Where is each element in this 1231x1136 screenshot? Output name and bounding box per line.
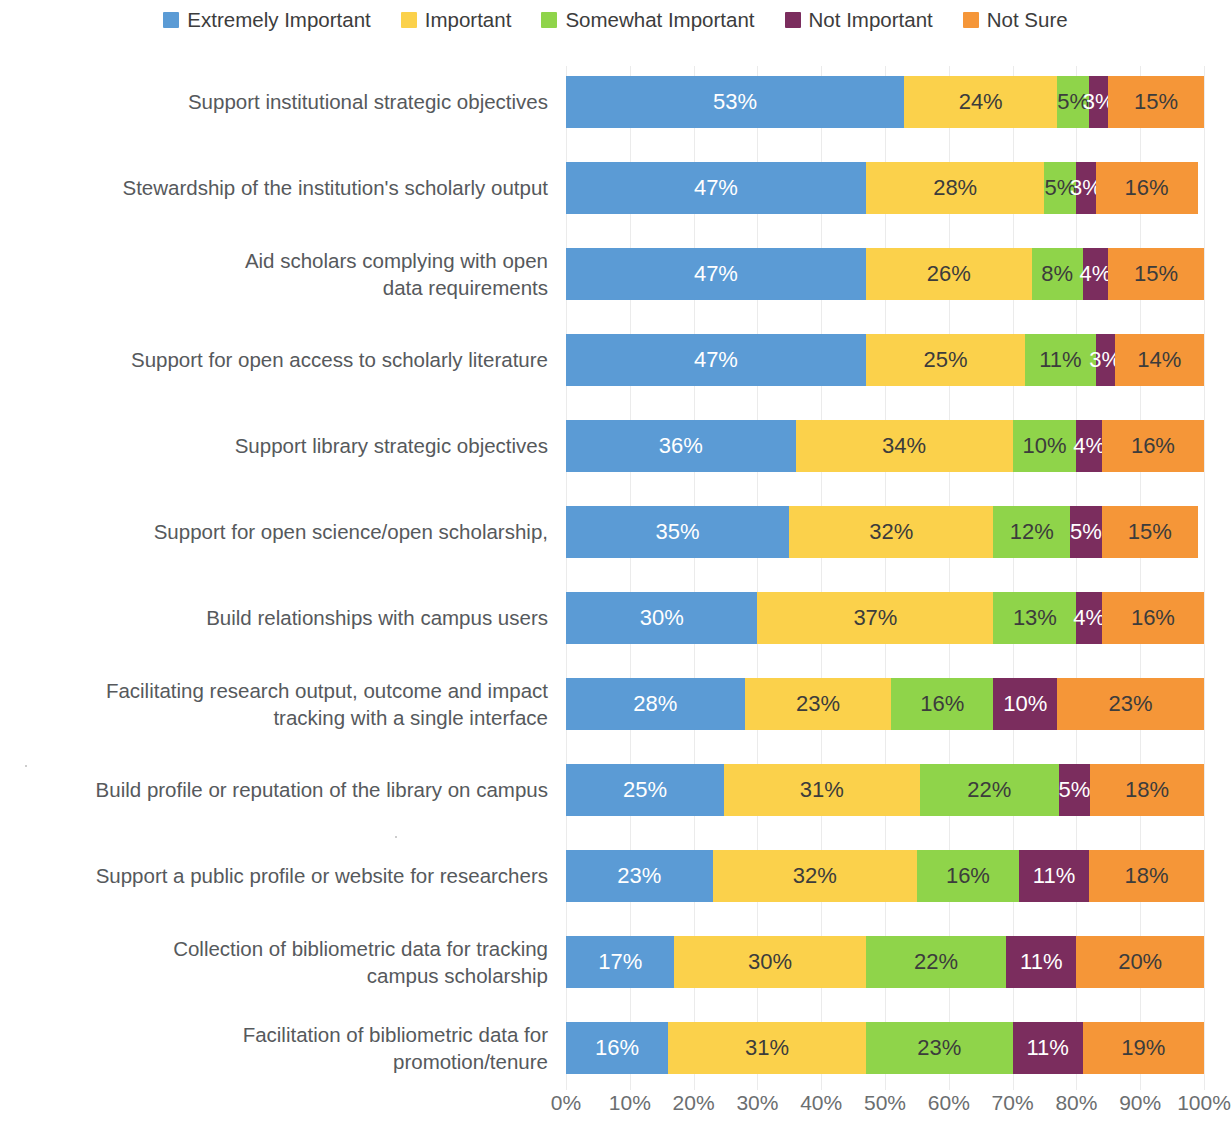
- legend-item[interactable]: Extremely Important: [163, 10, 370, 31]
- legend-swatch-icon: [401, 12, 417, 28]
- bar-segment-value: 23%: [796, 693, 840, 715]
- legend-item[interactable]: Not Important: [785, 10, 933, 31]
- bar-segment-value: 23%: [617, 865, 661, 887]
- bar-segment-value: 25%: [623, 779, 667, 801]
- category-label-line: Support for open access to scholarly lit…: [131, 346, 548, 373]
- category-label-line: Support a public profile or website for …: [96, 862, 548, 889]
- bar-segment[interactable]: 18%: [1089, 850, 1204, 902]
- bar-segment[interactable]: 35%: [566, 506, 789, 558]
- legend-item[interactable]: Somewhat Important: [541, 10, 754, 31]
- bar-segment-value: 16%: [595, 1037, 639, 1059]
- bar-segment[interactable]: 53%: [566, 76, 904, 128]
- bar-segment[interactable]: 14%: [1115, 334, 1204, 386]
- bar-segment[interactable]: 31%: [724, 764, 920, 816]
- bar-segment[interactable]: 3%: [1089, 76, 1108, 128]
- bar-segment[interactable]: 5%: [1070, 506, 1102, 558]
- legend-item[interactable]: Important: [401, 10, 512, 31]
- bar-row: 17%30%22%11%20%: [566, 936, 1204, 988]
- bar-segment[interactable]: 13%: [993, 592, 1076, 644]
- x-axis-tick-label: 10%: [609, 1092, 651, 1113]
- category-label: Build profile or reputation of the libra…: [0, 764, 548, 816]
- bar-segment[interactable]: 47%: [566, 334, 866, 386]
- bar-segment-value: 34%: [882, 435, 926, 457]
- bar-segment[interactable]: 24%: [904, 76, 1057, 128]
- bar-segment[interactable]: 11%: [1019, 850, 1089, 902]
- bar-segment[interactable]: 28%: [566, 678, 745, 730]
- bar-segment[interactable]: 4%: [1083, 248, 1109, 300]
- bar-segment-value: 11%: [1039, 349, 1081, 371]
- bar-segment-value: 4%: [1073, 607, 1105, 629]
- legend-item-label: Somewhat Important: [565, 10, 754, 31]
- bar-segment[interactable]: 8%: [1032, 248, 1083, 300]
- category-label-line: Stewardship of the institution's scholar…: [122, 174, 548, 201]
- bar-segment[interactable]: 23%: [1057, 678, 1204, 730]
- bar-segment[interactable]: 11%: [1025, 334, 1095, 386]
- category-label-line: Support library strategic objectives: [235, 432, 548, 459]
- bar-segment-value: 25%: [924, 349, 968, 371]
- bar-segment[interactable]: 23%: [566, 850, 713, 902]
- bar-segment[interactable]: 10%: [1013, 420, 1077, 472]
- bar-segment[interactable]: 23%: [745, 678, 892, 730]
- bar-segment[interactable]: 20%: [1076, 936, 1204, 988]
- bar-segment[interactable]: 4%: [1076, 592, 1102, 644]
- bar-segment[interactable]: 36%: [566, 420, 796, 472]
- bar-segment[interactable]: 37%: [757, 592, 993, 644]
- bar-segment[interactable]: 26%: [866, 248, 1032, 300]
- bar-segment-value: 15%: [1134, 91, 1178, 113]
- bar-segment[interactable]: 28%: [866, 162, 1045, 214]
- category-label: Support for open science/open scholarshi…: [0, 506, 548, 558]
- bar-segment[interactable]: 16%: [1102, 420, 1204, 472]
- bar-segment-value: 47%: [694, 263, 738, 285]
- bar-segment[interactable]: 12%: [993, 506, 1070, 558]
- bar-segment[interactable]: 10%: [993, 678, 1057, 730]
- bar-segment[interactable]: 32%: [713, 850, 917, 902]
- bar-segment[interactable]: 32%: [789, 506, 993, 558]
- bar-segment-value: 35%: [656, 521, 700, 543]
- legend-swatch-icon: [785, 12, 801, 28]
- x-axis-tick-label: 20%: [673, 1092, 715, 1113]
- bar-segment-value: 30%: [748, 951, 792, 973]
- bar-segment[interactable]: 19%: [1083, 1022, 1204, 1074]
- bar-segment-value: 22%: [967, 779, 1011, 801]
- bar-segment[interactable]: 23%: [866, 1022, 1013, 1074]
- bar-segment[interactable]: 22%: [866, 936, 1006, 988]
- bar-segment[interactable]: 11%: [1006, 936, 1076, 988]
- plot-area: 53%24%5%3%15%47%28%5%3%16%47%26%8%4%15%4…: [566, 66, 1204, 1090]
- bar-segment[interactable]: 25%: [566, 764, 724, 816]
- bar-segment[interactable]: 16%: [1102, 592, 1204, 644]
- bar-segment[interactable]: 34%: [796, 420, 1013, 472]
- legend-item[interactable]: Not Sure: [963, 10, 1068, 31]
- chart-legend: Extremely ImportantImportantSomewhat Imp…: [0, 0, 1231, 40]
- bar-row: 47%26%8%4%15%: [566, 248, 1204, 300]
- stray-speck: [395, 836, 397, 838]
- bar-segment[interactable]: 30%: [674, 936, 865, 988]
- bar-segment[interactable]: 15%: [1108, 76, 1204, 128]
- bar-segment[interactable]: 5%: [1059, 764, 1091, 816]
- bar-segment[interactable]: 3%: [1096, 334, 1115, 386]
- bar-segment[interactable]: 16%: [1096, 162, 1198, 214]
- bar-segment[interactable]: 31%: [668, 1022, 866, 1074]
- bar-row: 25%31%22%5%18%: [566, 764, 1204, 816]
- bar-segment[interactable]: 16%: [566, 1022, 668, 1074]
- bar-segment[interactable]: 15%: [1108, 248, 1204, 300]
- bar-segment-value: 24%: [959, 91, 1003, 113]
- bar-segment[interactable]: 18%: [1090, 764, 1204, 816]
- bar-segment[interactable]: 17%: [566, 936, 674, 988]
- bar-segment[interactable]: 47%: [566, 248, 866, 300]
- x-axis-tick-label: 60%: [928, 1092, 970, 1113]
- bar-segment[interactable]: 30%: [566, 592, 757, 644]
- bar-segment-value: 18%: [1125, 779, 1169, 801]
- category-label: Support a public profile or website for …: [0, 850, 548, 902]
- bar-segment-value: 4%: [1073, 435, 1105, 457]
- bar-segment[interactable]: 16%: [891, 678, 993, 730]
- bar-segment[interactable]: 16%: [917, 850, 1019, 902]
- bar-segment[interactable]: 11%: [1013, 1022, 1083, 1074]
- bar-segment[interactable]: 22%: [920, 764, 1059, 816]
- bar-segment[interactable]: 3%: [1076, 162, 1095, 214]
- bar-segment[interactable]: 4%: [1076, 420, 1102, 472]
- bar-segment[interactable]: 47%: [566, 162, 866, 214]
- bar-segment-value: 19%: [1121, 1037, 1165, 1059]
- bar-segment[interactable]: 25%: [866, 334, 1026, 386]
- category-label: Aid scholars complying with opendata req…: [0, 248, 548, 300]
- bar-segment[interactable]: 15%: [1102, 506, 1198, 558]
